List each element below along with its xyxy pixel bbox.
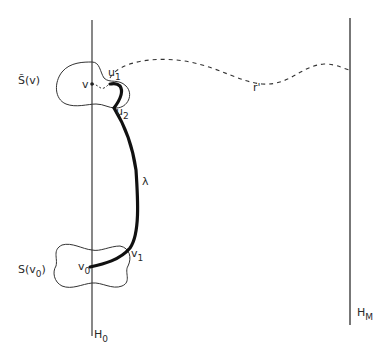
label-lambda: λ xyxy=(142,175,149,188)
path-v-to-u1 xyxy=(92,84,110,88)
label-h0: H0 xyxy=(94,328,108,344)
path-r-prime xyxy=(110,59,350,84)
label-v0: v0 xyxy=(78,260,91,276)
label-s-tilde-v: S̃(v) xyxy=(18,74,40,87)
label-v: v xyxy=(82,78,89,91)
label-r-prime: r' xyxy=(253,81,261,94)
path-lambda xyxy=(90,84,138,268)
label-u2: u2 xyxy=(116,105,129,121)
label-v1: v1 xyxy=(131,247,143,263)
label-hm: HM xyxy=(357,306,373,322)
diagram-canvas: S̃(v) v u1 u2 λ r' v1 v0 S(v0) H0 HM xyxy=(0,0,389,361)
point-v xyxy=(90,82,94,86)
label-s-v0: S(v0) xyxy=(18,263,46,279)
label-u1: u1 xyxy=(108,66,121,82)
